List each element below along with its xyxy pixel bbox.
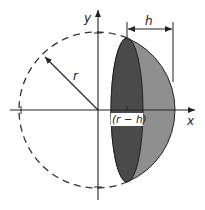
spherical-cap-diagram: y x r h (r − h) — [0, 0, 205, 210]
radius-arrow — [45, 57, 98, 110]
y-axis-label: y — [83, 11, 92, 25]
radius-label: r — [73, 69, 79, 83]
height-label: h — [145, 14, 153, 28]
x-axis-label: x — [186, 114, 195, 128]
offset-label: (r − h) — [112, 113, 147, 125]
